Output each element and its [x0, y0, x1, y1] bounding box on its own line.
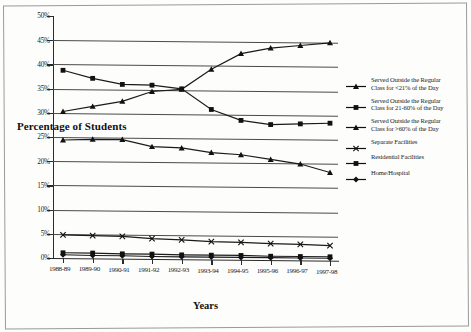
series-line [63, 139, 330, 172]
data-point [239, 118, 244, 123]
legend-label: Residential Facilities [371, 153, 471, 161]
legend-label: Served Outside the RegularClass for >60%… [371, 117, 471, 132]
data-point [120, 82, 125, 87]
legend-marker-square-icon [345, 154, 367, 163]
legend-marker-triangle-icon [345, 77, 367, 86]
data-point [61, 68, 66, 73]
data-point [150, 83, 155, 88]
legend-label: Served Outside the RegularClass for 21-6… [371, 97, 471, 112]
legend-item-5[interactable]: Residential Facilities [345, 153, 471, 163]
legend-marker-cross-icon [345, 139, 367, 148]
legend-label: Home/Hospital [371, 169, 471, 177]
legend-item-3[interactable]: Served Outside the RegularClass for >60%… [345, 117, 471, 132]
data-point [298, 121, 303, 126]
data-point [90, 76, 95, 81]
legend-marker-triangle-icon [345, 118, 367, 127]
data-point [209, 107, 214, 112]
legend-item-6[interactable]: Home/Hospital [345, 169, 471, 179]
series-line [63, 70, 330, 124]
data-point [268, 122, 273, 127]
legend-marker-diamond-icon [345, 170, 367, 179]
legend-label: Served Outside the RegularClass for <21%… [371, 76, 471, 91]
legend-item-4[interactable]: Separate Facilities [345, 138, 471, 148]
x-axis-title: Years [193, 300, 218, 311]
series-4 [60, 232, 332, 248]
y-axis-title: Percentage of Students [17, 120, 127, 132]
data-point [328, 121, 333, 126]
series-line [63, 253, 330, 257]
series-3 [60, 136, 333, 175]
legend-item-1[interactable]: Served Outside the RegularClass for <21%… [345, 76, 471, 91]
legend-item-2[interactable]: Served Outside the RegularClass for 21-6… [345, 97, 471, 112]
series-line [63, 235, 330, 246]
series-line [63, 43, 330, 112]
series-2 [61, 68, 333, 127]
chart-legend: Served Outside the RegularClass for <21%… [345, 76, 471, 184]
chart-page: 0%5%10%15%20%25%30%35%40%45%50% 1988-891… [0, 0, 471, 332]
legend-label: Separate Facilities [371, 138, 471, 146]
series-1 [60, 40, 333, 114]
data-point [208, 66, 214, 71]
data-point [179, 86, 184, 91]
legend-marker-square-icon [345, 98, 367, 107]
